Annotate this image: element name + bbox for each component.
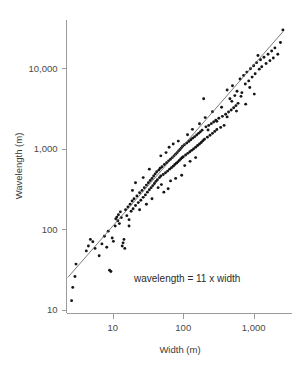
data-point	[180, 174, 183, 177]
data-point	[148, 168, 151, 171]
data-point	[169, 179, 172, 182]
data-point	[142, 196, 145, 199]
data-point	[145, 203, 148, 206]
data-point	[144, 193, 147, 196]
data-point	[112, 240, 115, 243]
data-point	[142, 176, 145, 179]
data-point	[70, 299, 73, 302]
data-point	[105, 246, 108, 249]
data-point	[139, 199, 142, 202]
data-point	[263, 56, 266, 59]
data-point	[118, 222, 121, 225]
data-point	[132, 207, 135, 210]
data-point	[162, 173, 165, 176]
data-point	[230, 108, 233, 111]
data-point	[211, 132, 214, 135]
data-point	[74, 275, 77, 278]
data-point	[75, 263, 78, 266]
data-point	[125, 214, 128, 217]
data-point	[202, 97, 205, 100]
data-point	[210, 122, 213, 125]
y-tick-label: 1,000	[34, 143, 58, 154]
y-axis-ticks: 101001,00010,000	[28, 63, 66, 315]
y-tick-label: 100	[42, 224, 58, 235]
data-point	[183, 164, 186, 167]
data-point	[177, 140, 180, 143]
data-point	[203, 138, 206, 141]
scatter-plot-figure: 101001,00010,000 101001,000 wavelength =…	[0, 0, 300, 377]
data-point	[123, 247, 126, 250]
data-point	[71, 286, 74, 289]
data-point	[207, 129, 210, 132]
data-point	[276, 53, 279, 56]
data-point	[159, 154, 162, 157]
data-point	[201, 129, 204, 132]
data-point	[232, 106, 235, 109]
x-axis-ticks: 101001,000	[108, 314, 266, 333]
data-point	[220, 106, 223, 109]
data-point	[117, 213, 120, 216]
data-point	[233, 94, 236, 97]
data-point	[240, 95, 243, 98]
data-point	[268, 59, 271, 62]
data-point	[134, 181, 137, 184]
data-point	[100, 242, 103, 245]
data-point	[168, 146, 171, 149]
data-point	[207, 124, 210, 127]
data-point	[281, 29, 284, 32]
y-tick-label: 10	[47, 304, 58, 315]
data-point	[91, 240, 94, 243]
data-point	[111, 237, 114, 240]
data-point	[234, 104, 237, 107]
data-point	[270, 49, 273, 52]
data-point	[137, 201, 140, 204]
data-point	[194, 156, 197, 159]
data-point	[85, 249, 88, 252]
data-point	[191, 128, 194, 131]
data-point	[221, 115, 224, 118]
data-point	[159, 175, 162, 178]
data-point	[198, 122, 201, 125]
y-tick-label: 10,000	[28, 63, 57, 74]
data-point	[265, 62, 268, 65]
data-point	[248, 86, 251, 89]
data-point	[165, 151, 168, 154]
data-point	[109, 270, 112, 273]
data-point	[151, 197, 154, 200]
data-point	[128, 218, 131, 221]
data-point	[204, 125, 207, 128]
data-point	[115, 216, 118, 219]
data-point	[215, 120, 218, 123]
data-point	[244, 83, 247, 86]
data-point	[167, 187, 170, 190]
data-point	[98, 254, 101, 257]
data-point	[260, 65, 263, 68]
data-point	[151, 177, 154, 180]
data-point	[240, 91, 243, 94]
data-point	[162, 191, 165, 194]
data-point	[215, 128, 218, 131]
y-axis-title: Wavelength (m)	[13, 133, 24, 200]
data-point	[273, 46, 276, 49]
data-point	[146, 191, 149, 194]
data-point	[172, 143, 175, 146]
data-point	[230, 100, 233, 103]
data-point	[231, 84, 234, 87]
x-tick-label: 10	[108, 322, 119, 333]
data-point	[272, 57, 275, 60]
data-point	[227, 111, 230, 114]
data-point	[254, 72, 257, 75]
data-points-layer	[70, 29, 284, 302]
data-point	[119, 210, 122, 213]
data-point	[174, 177, 177, 180]
trend-line	[68, 32, 283, 278]
data-point	[217, 117, 220, 120]
data-point	[89, 238, 92, 241]
data-point	[279, 41, 282, 44]
data-point	[244, 103, 247, 106]
data-point	[123, 238, 126, 241]
data-point	[130, 210, 133, 213]
data-point	[87, 245, 90, 248]
data-point	[138, 208, 141, 211]
data-point	[161, 165, 164, 168]
